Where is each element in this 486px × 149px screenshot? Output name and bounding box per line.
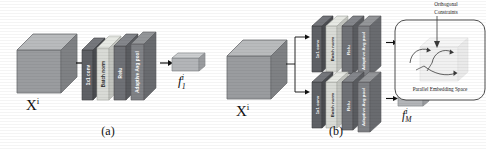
- orthogonal-constraints-line1: Orthogonal: [408, 1, 484, 9]
- layer-slab-shape: [358, 72, 384, 132]
- layer-block-batch-norm-a: Batch norm: [97, 36, 109, 88]
- feature-label-fM-b: fMi: [402, 107, 408, 124]
- figure-canvas: Xi 1x1 conv: [0, 0, 486, 149]
- branch-split-connector-b: [286, 24, 312, 104]
- layer-slab-shape: [131, 32, 159, 100]
- layer-block-adaptive-avg-pool-a: Adaptive Avg pool: [131, 32, 144, 88]
- input-label-b: Xi: [236, 102, 249, 120]
- layer-stack-a: 1x1 conv Batch norm Relu: [82, 26, 160, 98]
- panel-a: Xi 1x1 conv: [0, 0, 216, 149]
- feature-label-f1-a-sub: 1: [182, 82, 186, 91]
- orthogonal-constraints-line2: Constraints: [408, 9, 484, 17]
- cube-shape: [226, 39, 288, 101]
- panel-caption-b: (b): [216, 124, 456, 139]
- input-label-a-sup: i: [37, 96, 40, 106]
- cube-shape: [16, 33, 78, 95]
- feature-label-f1-a-sup: i: [182, 73, 184, 82]
- input-label-a: Xi: [26, 96, 39, 114]
- feature-label-fM-b-sup: i: [406, 107, 408, 116]
- layer-block-relu-a: Relu: [114, 34, 126, 88]
- input-label-a-base: X: [26, 97, 37, 113]
- input-cube-b: [226, 39, 286, 99]
- parallel-embedding-space-label: Parallel Embedding Space: [398, 86, 482, 92]
- input-label-b-base: X: [236, 103, 247, 119]
- feature-slab-shape: [172, 52, 206, 72]
- input-label-b-sup: i: [247, 102, 250, 112]
- orthogonal-constraints-pointer: [431, 16, 445, 50]
- layer-block-1x1-conv-a: 1x1 conv: [82, 38, 93, 88]
- panel-b: Xi 1x1 conv: [216, 0, 486, 149]
- panel-caption-a: (a): [0, 124, 216, 139]
- feature-label-f1-a: f1i: [178, 73, 184, 91]
- input-cube-a: [16, 33, 76, 93]
- orthogonal-constraints-label: Orthogonal Constraints: [408, 1, 484, 17]
